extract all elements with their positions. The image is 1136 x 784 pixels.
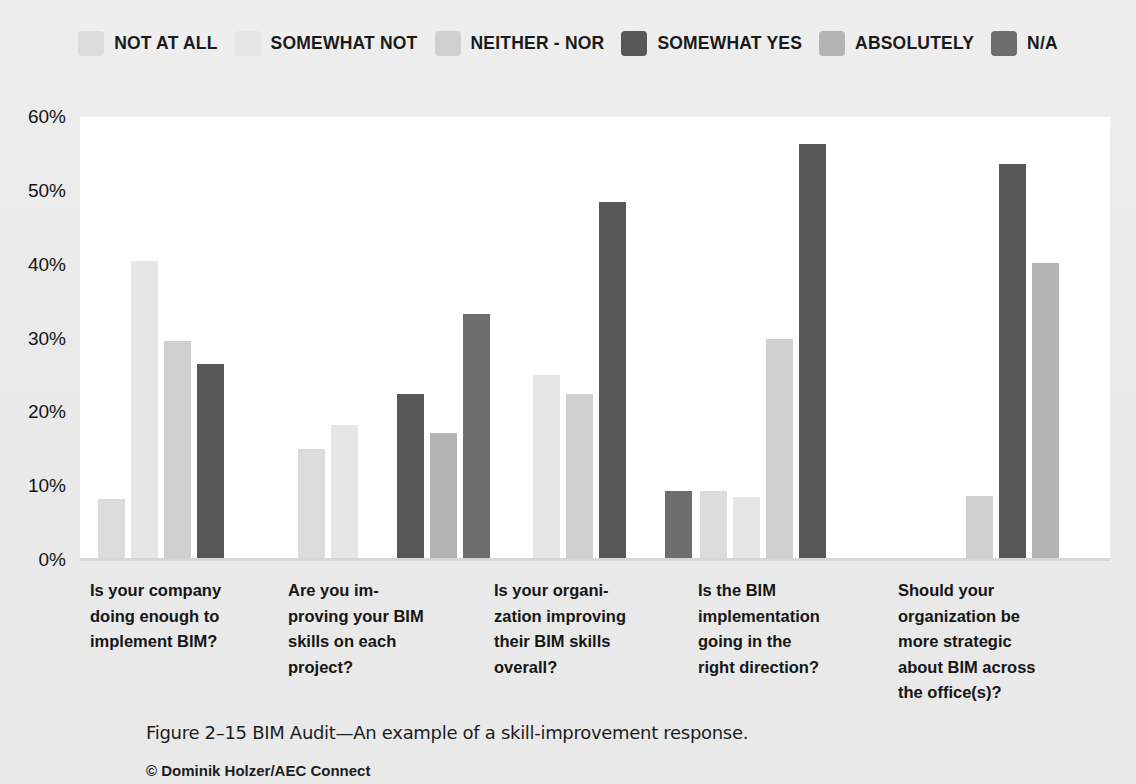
legend-label: SOMEWHAT YES	[657, 33, 802, 54]
x-axis-label-line: Should your	[898, 578, 1088, 604]
x-axis-label-line: Are you im-	[288, 578, 478, 604]
y-axis-tick-50: 50%	[28, 180, 66, 202]
plot-frame	[80, 117, 1110, 560]
bar[interactable]	[1032, 263, 1059, 560]
x-axis-label-line: Is your company	[90, 578, 280, 604]
x-axis-label-1: Are you im-proving your BIMskills on eac…	[288, 578, 478, 680]
x-axis-label-line: implementation	[698, 604, 888, 630]
bar-group-1	[298, 117, 490, 560]
legend-item-5: N/A	[991, 31, 1058, 56]
bar-group-2	[500, 117, 692, 560]
legend-item-1: SOMEWHAT NOT	[235, 31, 418, 56]
x-axis-label-line: overall?	[494, 655, 684, 681]
bar[interactable]	[430, 433, 457, 560]
plot-area	[80, 117, 1110, 560]
y-axis-tick-40: 40%	[28, 254, 66, 276]
bar[interactable]	[131, 261, 158, 560]
legend-item-4: ABSOLUTELY	[819, 31, 974, 56]
figure-page: NOT AT ALLSOMEWHAT NOTNEITHER - NORSOMEW…	[0, 0, 1136, 784]
legend-label: SOMEWHAT NOT	[271, 33, 418, 54]
x-axis-label-line: implement BIM?	[90, 629, 280, 655]
legend-item-0: NOT AT ALL	[78, 31, 217, 56]
y-axis-tick-0: 0%	[39, 549, 66, 571]
x-axis-label-3: Is the BIMimplementationgoing in therigh…	[698, 578, 888, 680]
legend-label: N/A	[1027, 33, 1058, 54]
y-axis-tick-30: 30%	[28, 328, 66, 350]
chart-legend: NOT AT ALLSOMEWHAT NOTNEITHER - NORSOMEW…	[0, 26, 1136, 60]
legend-item-3: SOMEWHAT YES	[621, 31, 802, 56]
x-axis-label-0: Is your companydoing enough toimplement …	[90, 578, 280, 655]
bar[interactable]	[298, 449, 325, 560]
x-axis-label-line: more strategic	[898, 629, 1088, 655]
x-axis-label-line: right direction?	[698, 655, 888, 681]
legend-swatch-icon	[991, 31, 1017, 56]
bar[interactable]	[766, 339, 793, 561]
bar[interactable]	[98, 499, 125, 560]
bar[interactable]	[966, 496, 993, 560]
x-axis-label-line: skills on each	[288, 629, 478, 655]
legend-label: ABSOLUTELY	[855, 33, 974, 54]
bar[interactable]	[164, 341, 191, 560]
figure-caption: Figure 2–15 BIM Audit—An example of a sk…	[146, 722, 748, 743]
bar[interactable]	[197, 364, 224, 560]
bar[interactable]	[533, 375, 560, 560]
x-axis-label-line: Is your organi-	[494, 578, 684, 604]
bar[interactable]	[566, 394, 593, 560]
x-axis-label-2: Is your organi-zation improvingtheir BIM…	[494, 578, 684, 680]
y-axis: 60%50%40%30%20%10%0%	[0, 117, 74, 560]
y-axis-tick-10: 10%	[28, 475, 66, 497]
x-axis-label-line: project?	[288, 655, 478, 681]
bar[interactable]	[599, 202, 626, 560]
x-axis-label-line: Is the BIM	[698, 578, 888, 604]
legend-swatch-icon	[819, 31, 845, 56]
x-axis-baseline	[80, 558, 1110, 561]
legend-swatch-icon	[621, 31, 647, 56]
x-axis-labels: Is your companydoing enough toimplement …	[80, 578, 1136, 708]
legend-item-2: NEITHER - NOR	[435, 31, 605, 56]
bar-group-0	[98, 117, 290, 560]
y-axis-tick-60: 60%	[28, 106, 66, 128]
bar[interactable]	[331, 425, 358, 560]
x-axis-label-line: zation improving	[494, 604, 684, 630]
bar[interactable]	[999, 164, 1026, 560]
x-axis-label-line: going in the	[698, 629, 888, 655]
figure-credit: © Dominik Holzer/AEC Connect	[146, 762, 370, 779]
x-axis-label-4: Should yourorganization bemore strategic…	[898, 578, 1088, 706]
x-axis-label-line: the office(s)?	[898, 680, 1088, 706]
legend-swatch-icon	[435, 31, 461, 56]
bar-group-4	[900, 117, 1092, 560]
legend-swatch-icon	[78, 31, 104, 56]
x-axis-label-line: their BIM skills	[494, 629, 684, 655]
legend-swatch-icon	[235, 31, 261, 56]
bar[interactable]	[397, 394, 424, 560]
x-axis-label-line: doing enough to	[90, 604, 280, 630]
x-axis-label-line: organization be	[898, 604, 1088, 630]
y-axis-tick-20: 20%	[28, 401, 66, 423]
x-axis-label-line: proving your BIM	[288, 604, 478, 630]
legend-label: NOT AT ALL	[114, 33, 217, 54]
x-axis-label-line: about BIM across	[898, 655, 1088, 681]
bar-group-3	[700, 117, 892, 560]
bar[interactable]	[463, 314, 490, 560]
bar[interactable]	[665, 491, 692, 560]
bar[interactable]	[733, 497, 760, 560]
bar[interactable]	[799, 144, 826, 560]
bar[interactable]	[700, 491, 727, 560]
legend-label: NEITHER - NOR	[471, 33, 605, 54]
